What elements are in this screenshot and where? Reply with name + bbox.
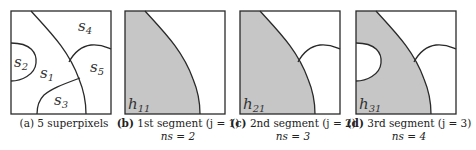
label-s3: s3 <box>54 91 68 110</box>
label-s1: s1 <box>40 64 54 83</box>
segment-diagram: h11 <box>120 0 236 116</box>
segment-diagram: h31 <box>351 0 467 116</box>
ns-value: ns = 4 <box>341 130 476 143</box>
label-s5: s5 <box>90 58 104 77</box>
caption-text: 3rd segment (j = 3) <box>367 117 471 129</box>
segment-diagram: h21 <box>235 0 351 116</box>
caption-text: 5 superpixels <box>37 117 108 129</box>
caption-text: 2nd segment (j = 2) <box>250 117 356 129</box>
panel-d-segment-3: h31 (d) 3rd segment (j = 3) ns = 4 <box>351 0 467 150</box>
caption-tag: (a) <box>20 117 34 129</box>
panel-c-segment-2: h21 (c) 2nd segment (j = 2) ns = 3 <box>235 0 351 150</box>
superpixel-diagram: s1 s2 s3 s4 s5 <box>6 0 122 116</box>
caption-tag: (b) <box>117 117 134 129</box>
label-s2: s2 <box>14 53 28 72</box>
caption-tag: (d) <box>347 117 364 129</box>
panel-b-segment-1: h11 (b) 1st segment (j = 1) ns = 2 <box>120 0 236 150</box>
caption-tag: (c) <box>230 117 246 129</box>
label-s4: s4 <box>78 17 92 36</box>
panel-a-superpixels: s1 s2 s3 s4 s5 (a) 5 superpixels <box>6 0 122 150</box>
caption-d: (d) 3rd segment (j = 3) ns = 4 <box>341 117 476 143</box>
